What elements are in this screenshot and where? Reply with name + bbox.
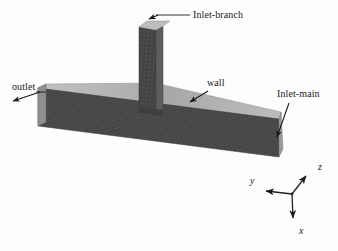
branch-duct-front-face <box>139 27 156 115</box>
axis-label-z: z <box>318 162 322 172</box>
axis-label-y: y <box>250 176 254 186</box>
branch-duct-side-face <box>156 26 163 115</box>
axis-triad <box>266 176 306 218</box>
axis-y-line <box>266 191 292 194</box>
geometry-scene <box>0 0 338 251</box>
label-inlet-main: Inlet-main <box>277 89 320 99</box>
main-duct-inlet-face <box>279 112 283 157</box>
axis-origin <box>291 193 294 196</box>
outlet-arrow <box>13 92 40 101</box>
label-inlet-branch: Inlet-branch <box>193 10 243 20</box>
axis-label-x: x <box>299 226 303 236</box>
label-outlet: outlet <box>12 82 35 92</box>
main-duct-outlet-face <box>38 84 46 126</box>
axis-x-line <box>292 194 293 218</box>
axis-z-line <box>292 176 306 194</box>
label-wall: wall <box>207 78 225 88</box>
figure-container: Inlet-branch wall Inlet-main outlet x y … <box>0 0 338 251</box>
inlet-branch-arrow <box>149 15 158 19</box>
